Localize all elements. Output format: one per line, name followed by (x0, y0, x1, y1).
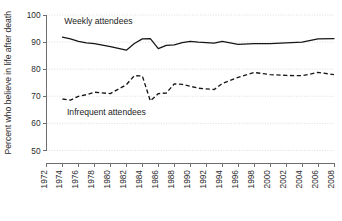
x-tick-label-2004: 2004 (294, 170, 304, 189)
x-tick-label-2006: 2006 (310, 170, 320, 189)
x-tick-label-1982: 1982 (118, 170, 128, 189)
x-tick-label-1974: 1974 (54, 170, 64, 189)
y-axis-title: Percent who believe in life after death (3, 11, 13, 155)
line-chart: 5060708090100 19721974197619781980198219… (0, 0, 342, 221)
x-tick-label-1986: 1986 (150, 170, 160, 189)
x-tick-label-1992: 1992 (198, 170, 208, 189)
x-tick-label-1996: 1996 (230, 170, 240, 189)
y-tick-labels: 5060708090100 (27, 10, 41, 156)
gridlines (47, 15, 335, 151)
y-tick-label-90: 90 (31, 37, 41, 47)
y-axis-title-text: Percent who believe in life after death (3, 11, 13, 155)
x-tick-label-2002: 2002 (278, 170, 288, 189)
y-tick-label-70: 70 (31, 91, 41, 101)
x-tick-label-1972: 1972 (39, 170, 49, 189)
x-tick-label-1976: 1976 (70, 170, 80, 189)
annotation-infrequent-attendees: Infrequent attendees (67, 107, 146, 117)
x-tick-label-1998: 1998 (246, 170, 256, 189)
x-tick-label-1978: 1978 (86, 170, 96, 189)
y-tick-label-100: 100 (27, 10, 41, 20)
x-tick-label-1994: 1994 (214, 170, 224, 189)
x-axis (47, 163, 335, 167)
series-annotations: Weekly attendeesInfrequent attendees (64, 16, 145, 117)
series-line-weekly-attendees (62, 37, 334, 50)
y-axis (43, 15, 47, 151)
x-tick-label-1980: 1980 (102, 170, 112, 189)
y-tick-label-60: 60 (31, 118, 41, 128)
x-tick-label-2000: 2000 (262, 170, 272, 189)
x-tick-label-2008: 2008 (326, 170, 336, 189)
x-tick-label-1990: 1990 (182, 170, 192, 189)
x-tick-label-1988: 1988 (166, 170, 176, 189)
x-tick-labels: 1972197419761978198019821984198619881990… (39, 170, 337, 189)
y-tick-label-80: 80 (31, 64, 41, 74)
y-tick-label-50: 50 (31, 146, 41, 156)
chart-container: 5060708090100 19721974197619781980198219… (0, 0, 342, 221)
x-tick-label-1984: 1984 (134, 170, 144, 189)
annotation-weekly-attendees: Weekly attendees (64, 16, 132, 26)
